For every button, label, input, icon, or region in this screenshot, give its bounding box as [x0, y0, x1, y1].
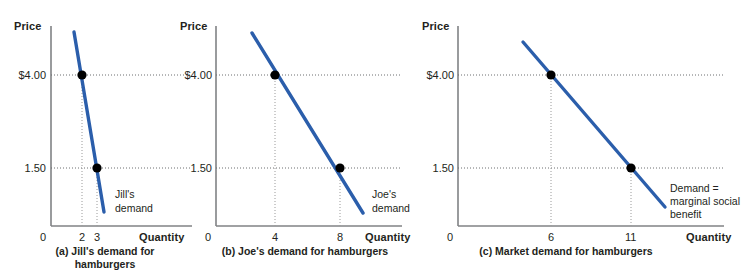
demand-curve-jill [74, 32, 104, 212]
curve-label-line1: Jill's [115, 188, 135, 201]
y-axis-title: Price [14, 20, 41, 32]
y-tick-400: $4.00 [2, 69, 46, 81]
x-axis-title: Quantity [139, 231, 184, 243]
x-axis-title: Quantity [365, 231, 410, 243]
panel-caption-line2: hamburgers [10, 258, 200, 271]
y-axis-title: Price [180, 20, 207, 32]
data-point-2-400 [77, 70, 86, 79]
curve-label-line1: Demand = [670, 182, 719, 195]
data-point-6-400 [546, 70, 555, 79]
x-tick-4: 4 [272, 231, 278, 243]
curve-label-line2: demand [372, 202, 410, 215]
y-axis-title: Price [422, 20, 449, 32]
x-tick-8: 8 [337, 231, 343, 243]
y-tick-400: $4.00 [168, 69, 212, 81]
y-tick-150: 1.50 [410, 162, 454, 174]
y-tick-150: 1.50 [2, 162, 46, 174]
y-tick-150: 1.50 [168, 162, 212, 174]
data-point-3-150 [92, 163, 101, 172]
x-tick-11: 11 [625, 231, 636, 243]
panel-c-market-demand: Price $4.00 1.50 0 6 11 Quantity Demand … [420, 0, 752, 274]
panel-b-joes-demand: Price $4.00 1.50 0 4 8 Quantity Joe's de… [180, 0, 430, 274]
panel-caption-line1: (c) Market demand for hamburgers [400, 245, 732, 258]
x-origin-label: 0 [40, 231, 46, 243]
curve-label-line1: Joe's [372, 188, 396, 201]
demand-curves-figure: Price $4.00 1.50 0 2 3 Quantity Jill's d… [0, 0, 752, 274]
x-tick-6: 6 [548, 231, 554, 243]
x-origin-label: 0 [205, 231, 211, 243]
curve-label-line2: marginal social [670, 195, 740, 208]
data-point-4-400 [270, 70, 279, 79]
x-tick-2: 2 [79, 231, 85, 243]
data-point-11-150 [626, 163, 635, 172]
x-axis-title: Quantity [686, 231, 731, 243]
curve-label-line3: benefit [670, 208, 702, 221]
demand-curve-market [523, 42, 665, 207]
x-origin-label: 0 [447, 231, 453, 243]
demand-curve-joe [252, 33, 363, 213]
panel-caption-line1: (a) Jill's demand for [10, 245, 200, 258]
curve-label-line2: demand [115, 202, 153, 215]
panel-caption-line1: (b) Joe's demand for hamburgers [180, 245, 430, 258]
x-tick-3: 3 [94, 231, 100, 243]
data-point-8-150 [335, 163, 344, 172]
panel-a-jills-demand: Price $4.00 1.50 0 2 3 Quantity Jill's d… [0, 0, 200, 274]
y-tick-400: $4.00 [410, 69, 454, 81]
